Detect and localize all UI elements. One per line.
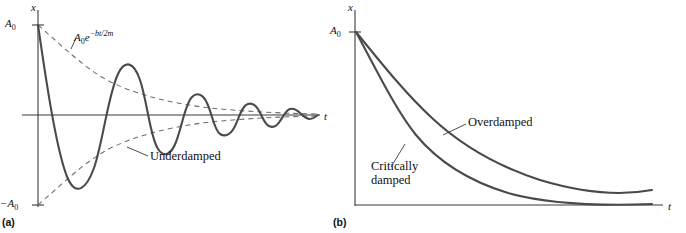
panel-b-critically-damped-line1: Critically [371,160,418,174]
panel-a-underdamped-curve [38,25,318,189]
panel-a-tick-label-minus-a0-text: −A [0,197,14,209]
panel-a-envelope-formula-label: A0e−bt/2m [74,29,113,46]
panel-b-tick-label-a0-sub: 0 [337,30,341,39]
panel-b-tick-label-a0-text: A [330,24,337,36]
panel-b-critically-damped-line2: damped [371,174,418,188]
envelope-formula-exponent: −bt/2m [90,29,114,38]
panel-b-y-axis-label: x [348,1,353,13]
panel-a-label: (a) [2,216,15,228]
panel-b-t-axis-label: t [668,200,671,212]
panel-b-tick-label-a0: A0 [330,24,341,39]
panel-a-group [22,10,320,207]
panel-a-underdamped-leader [127,147,148,156]
panel-a-tick-label-minus-a0: −A0 [0,197,18,212]
panel-a-tick-label-a0-text: A [5,17,12,29]
panel-a-y-axis-label: x [31,1,36,13]
panel-a-tick-label-minus-a0-sub: 0 [14,203,18,212]
panel-b-overdamped-label: Overdamped [468,115,533,130]
panel-b-critically-damped-label: Critically damped [371,160,418,188]
damped-oscillation-figure: x A0 −A0 t A0e−bt/2m Underdamped (a) x A… [0,0,686,233]
panel-b-label: (b) [333,216,346,228]
panel-a-t-axis-label: t [324,110,327,122]
panel-a-tick-label-a0-sub: 0 [12,23,16,32]
envelope-formula-base: A [74,31,81,43]
panel-a-underdamped-label: Underdamped [150,149,221,164]
panel-a-tick-label-a0: A0 [5,17,16,32]
